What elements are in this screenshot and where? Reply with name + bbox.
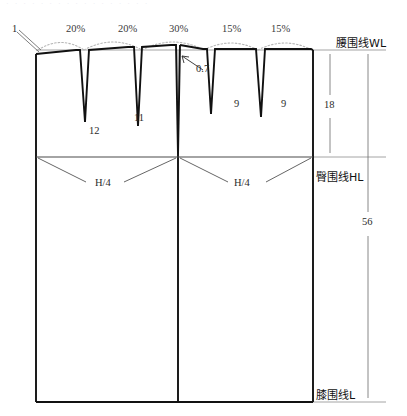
- hquarter-right-arrow-b: [266, 158, 311, 182]
- dart-share-label-1: 20%: [66, 24, 85, 35]
- dart-depth-label-2: 11: [134, 113, 144, 124]
- waist-to-hip-measure-label: 18: [324, 100, 335, 111]
- hip-quarter-label-left: H/4: [95, 178, 111, 189]
- waist-contour-right: [180, 45, 313, 117]
- dart-share-label-2: 20%: [118, 24, 137, 35]
- waist-contour-left: [36, 45, 180, 155]
- dart-share-label-5: 15%: [271, 24, 290, 35]
- hip-quarter-dimension-lines: [38, 158, 311, 182]
- dart-depth-label-3: 9: [234, 99, 239, 110]
- waistline-label: 腰围线WL: [336, 38, 386, 49]
- kneeline-label: 膝围线L: [316, 390, 355, 401]
- pattern-diagram-canvas: · · · · · · · · · · · · · · · · ·: [0, 0, 407, 416]
- hquarter-left-arrow-b: [124, 158, 176, 182]
- dart-share-label-4: 15%: [222, 24, 241, 35]
- dart-share-label-3: 30%: [169, 24, 188, 35]
- arc-20-percent-a: [38, 43, 84, 51]
- dart-depth-label-4: 9: [281, 99, 286, 110]
- rise-callout-label: 1: [12, 24, 17, 35]
- hipline-label: 臀围线HL: [316, 172, 363, 183]
- waist-to-knee-measure-label: 56: [362, 217, 373, 228]
- hip-quarter-label-right: H/4: [234, 178, 250, 189]
- hquarter-right-arrow-a: [180, 158, 228, 182]
- ease-value-label: 0.7: [196, 64, 209, 75]
- dart-depth-label-1: 12: [89, 126, 100, 137]
- hquarter-left-arrow-a: [38, 158, 86, 182]
- pattern-outline: [36, 45, 313, 402]
- rise-callout-leader: [17, 30, 41, 52]
